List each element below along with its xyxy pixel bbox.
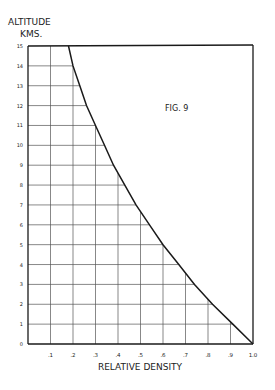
chart-title: FIG. 9 — [165, 104, 188, 113]
x-tick-label: 1.0 — [249, 352, 258, 358]
chart: 0123456789101112131415 .1.2.3.4.5.6.7.8.… — [0, 0, 275, 390]
y-tick-label: 9 — [20, 162, 23, 168]
top-border — [28, 45, 253, 46]
y-tick-label: 12 — [17, 103, 23, 109]
density-curve — [69, 46, 254, 344]
y-tick-label: 3 — [20, 281, 23, 287]
y-tick-label: 13 — [17, 83, 23, 89]
y-tick-label: 1 — [20, 321, 23, 327]
y-tick-label: 2 — [20, 301, 23, 307]
x-tick-label: .6 — [160, 352, 166, 358]
y-axis-ticks: 0123456789101112131415 — [17, 43, 23, 347]
x-tick-label: .8 — [205, 352, 211, 358]
x-tick-label: .5 — [138, 352, 144, 358]
x-tick-label: .3 — [93, 352, 99, 358]
x-tick-label: .2 — [70, 352, 75, 358]
y-tick-label: 14 — [17, 63, 23, 69]
y-axis-label-line2: KMS. — [20, 29, 42, 39]
x-tick-label: .9 — [228, 352, 234, 358]
y-tick-label: 15 — [17, 43, 23, 49]
x-axis-label: RELATIVE DENSITY — [98, 362, 183, 372]
y-tick-label: 10 — [17, 142, 23, 148]
x-tick-label: .1 — [48, 352, 53, 358]
x-tick-label: .7 — [183, 352, 189, 358]
x-axis-ticks: .1.2.3.4.5.6.7.8.91.0 — [48, 352, 258, 358]
x-tick-label: .4 — [115, 352, 121, 358]
y-axis-label-line1: ALTITUDE — [8, 17, 51, 27]
y-tick-label: 5 — [20, 242, 23, 248]
y-tick-label: 0 — [20, 341, 23, 347]
y-tick-label: 4 — [20, 262, 23, 268]
y-tick-label: 6 — [20, 222, 23, 228]
y-tick-label: 8 — [20, 182, 23, 188]
y-tick-label: 11 — [17, 122, 23, 128]
y-tick-label: 7 — [20, 202, 23, 208]
